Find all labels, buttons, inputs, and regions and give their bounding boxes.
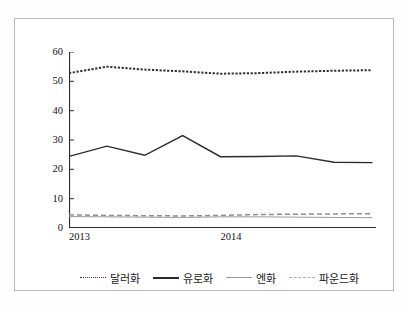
y-axis-tick-label: 20 xyxy=(39,164,63,174)
legend-item-label: 파운드화 xyxy=(319,270,359,286)
legend-item-2[interactable]: 유로화 xyxy=(153,270,213,286)
plot-area xyxy=(69,52,376,228)
chart-legend: 달러화유로화엔화파운드화 xyxy=(69,268,369,288)
series-line xyxy=(69,136,372,163)
legend-item-label: 달러화 xyxy=(110,270,140,286)
legend-item-1[interactable]: 달러화 xyxy=(80,270,140,286)
y-axis-tick-label: 50 xyxy=(39,76,63,86)
y-axis-tick-label: 30 xyxy=(39,135,63,145)
legend-line-marker-icon xyxy=(153,274,179,282)
axis-tick-marks xyxy=(69,52,372,228)
y-axis-tick-labels: 6050403020100 xyxy=(37,52,63,228)
y-axis-tick-label: 10 xyxy=(39,194,63,204)
series-line xyxy=(69,67,372,74)
x-axis-tick-label: 2013 xyxy=(69,231,90,242)
chart-figure: 6050403020100 20132014 달러화유로화엔화파운드화 xyxy=(0,0,411,309)
data-series-group xyxy=(69,67,372,218)
legend-item-label: 유로화 xyxy=(183,270,213,286)
y-axis-tick-label: 40 xyxy=(39,106,63,116)
legend-item-label: 엔화 xyxy=(256,270,276,286)
legend-line-marker-icon xyxy=(289,274,315,282)
series-line xyxy=(69,217,372,218)
legend-item-4[interactable]: 파운드화 xyxy=(289,270,359,286)
series-line xyxy=(69,214,372,216)
line-chart-svg xyxy=(69,52,376,228)
x-axis-tick-labels: 20132014 xyxy=(55,231,385,247)
legend-item-3[interactable]: 엔화 xyxy=(226,270,276,286)
x-axis-tick-label: 2014 xyxy=(221,231,242,242)
axis-lines xyxy=(69,52,376,228)
chart-frame-border: 6050403020100 20132014 달러화유로화엔화파운드화 xyxy=(14,18,394,291)
legend-line-marker-icon xyxy=(226,274,252,282)
y-axis-tick-label: 60 xyxy=(39,47,63,57)
legend-line-marker-icon xyxy=(80,274,106,282)
